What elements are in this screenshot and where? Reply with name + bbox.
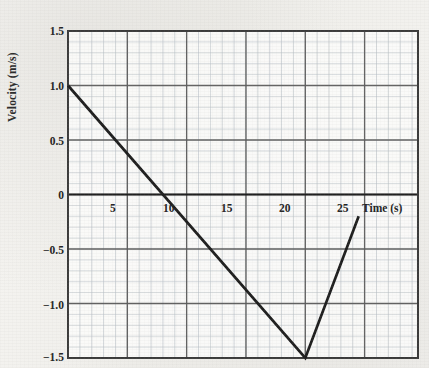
y-tick-label-5: −0.5 <box>16 244 64 256</box>
x-tick-label-10: 10 <box>163 202 175 214</box>
y-tick-label-4: 0 <box>20 189 64 201</box>
x-tick-label-5: 5 <box>110 202 116 214</box>
y-tick-label-7: −1.5 <box>16 351 64 363</box>
y-tick-label-6: −1.0 <box>16 299 64 311</box>
y-tick-label-2: 1.0 <box>20 80 64 92</box>
y-tick-label-3: 0.5 <box>20 135 64 147</box>
chart-canvas <box>0 0 429 368</box>
x-tick-label-15: 15 <box>221 202 233 214</box>
x-tick-label-25: 25 <box>337 202 349 214</box>
x-axis-title: Time (s) <box>362 202 402 214</box>
x-tick-label-20: 20 <box>279 202 291 214</box>
y-tick-label-1: 1.5 <box>20 25 64 37</box>
y-axis-title: Velocity (m/s) <box>6 0 18 122</box>
velocity-time-chart: Velocity (m/s) 1.5 1.0 0.5 0 −0.5 −1.0 −… <box>0 0 429 368</box>
